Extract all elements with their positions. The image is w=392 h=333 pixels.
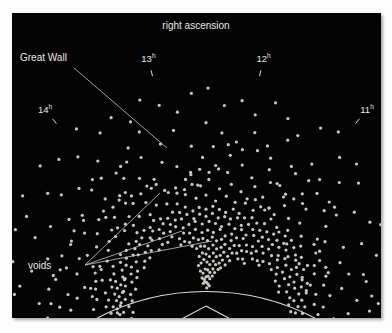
galaxy-point	[323, 240, 326, 243]
galaxy-point	[365, 280, 368, 283]
galaxy-point	[122, 290, 125, 293]
galaxy-point	[96, 232, 99, 235]
galaxy-point	[296, 134, 299, 137]
galaxy-point	[243, 216, 246, 219]
galaxy-point	[275, 226, 278, 229]
galaxy-point	[309, 284, 312, 287]
galaxy-point	[243, 262, 246, 265]
galaxy-point	[287, 303, 290, 306]
galaxy-point	[183, 188, 186, 191]
galaxy-point	[118, 313, 121, 316]
galaxy-point	[118, 295, 121, 298]
galaxy-point	[284, 249, 287, 252]
galaxy-point	[337, 130, 340, 133]
galaxy-point	[142, 229, 145, 232]
galaxy-point	[46, 317, 49, 318]
great-wall-label: Great Wall	[20, 52, 67, 63]
galaxy-point	[227, 223, 230, 226]
galaxy-point	[75, 272, 78, 275]
galaxy-point	[272, 233, 275, 236]
galaxy-point	[125, 160, 128, 163]
galaxy-point	[204, 194, 207, 197]
galaxy-point	[223, 215, 226, 218]
galaxy-point	[220, 225, 223, 228]
galaxy-point	[220, 131, 223, 134]
galaxy-point	[211, 205, 214, 208]
galaxy-point	[208, 220, 211, 223]
galaxy-point	[261, 245, 264, 248]
galaxy-point	[166, 241, 169, 244]
galaxy-point	[211, 267, 214, 270]
galaxy-point	[316, 313, 319, 316]
galaxy-point	[300, 299, 303, 302]
galaxy-point	[244, 233, 247, 236]
galaxy-point	[286, 117, 289, 120]
galaxy-point	[294, 253, 297, 256]
galaxy-point	[241, 164, 244, 167]
galaxy-point	[138, 177, 141, 180]
galaxy-point	[112, 272, 115, 275]
galaxy-point	[184, 193, 187, 196]
galaxy-point	[201, 272, 204, 275]
galaxy-point	[215, 255, 218, 258]
galaxy-point	[235, 140, 238, 143]
galaxy-point	[247, 223, 250, 226]
galaxy-point	[312, 243, 315, 246]
galaxy-point	[328, 294, 331, 297]
galaxy-point	[221, 259, 224, 262]
galaxy-point	[273, 213, 276, 216]
galaxy-point	[52, 274, 55, 277]
galaxy-point	[58, 306, 61, 309]
galaxy-point	[131, 299, 134, 302]
galaxy-point	[314, 293, 317, 296]
galaxy-point	[83, 286, 86, 289]
galaxy-point	[197, 264, 200, 267]
galaxy-point	[144, 201, 147, 204]
galaxy-point	[187, 223, 190, 226]
galaxy-point	[180, 217, 183, 220]
galaxy-point	[301, 192, 304, 195]
galaxy-point	[220, 238, 223, 241]
galaxy-point	[287, 283, 290, 286]
galaxy-point	[240, 228, 243, 231]
galaxy-point	[299, 245, 302, 248]
hour-label-text: 14h	[38, 103, 53, 115]
galaxy-point	[116, 226, 119, 229]
galaxy-point	[274, 280, 277, 283]
hour-label-text: 11h	[360, 103, 374, 115]
galaxy-point	[195, 197, 198, 200]
galaxy-point	[355, 299, 358, 302]
galaxy-point	[107, 299, 110, 302]
galaxy-point	[269, 181, 272, 184]
annotation-great-wall: Great Wall	[20, 52, 167, 148]
galaxy-point	[190, 145, 193, 148]
galaxy-point	[224, 234, 227, 237]
galaxy-point	[301, 312, 304, 315]
galaxy-point	[49, 225, 52, 228]
galaxy-point	[267, 248, 270, 251]
galaxy-point	[355, 162, 358, 165]
galaxy-point	[171, 211, 174, 214]
hour-tick	[356, 119, 360, 124]
galaxy-point	[119, 261, 122, 264]
galaxy-point	[119, 304, 122, 307]
galaxy-point	[281, 271, 284, 274]
hour-tick	[151, 70, 152, 76]
galaxy-point	[201, 222, 204, 225]
galaxy-point	[313, 303, 316, 306]
galaxy-point	[94, 271, 97, 274]
galaxy-point	[287, 217, 290, 220]
galaxy-point	[60, 254, 63, 257]
galaxy-point	[213, 271, 216, 274]
galaxy-point	[135, 240, 138, 243]
galaxy-point	[183, 240, 186, 243]
galaxy-point	[184, 206, 187, 209]
galaxy-point	[235, 236, 238, 239]
galaxy-point	[54, 278, 57, 281]
galaxy-point	[194, 220, 197, 223]
galaxy-point	[69, 309, 72, 312]
galaxy-point	[276, 266, 279, 269]
galaxy-point	[96, 159, 99, 162]
galaxy-point	[81, 214, 84, 217]
galaxy-point	[284, 264, 287, 267]
